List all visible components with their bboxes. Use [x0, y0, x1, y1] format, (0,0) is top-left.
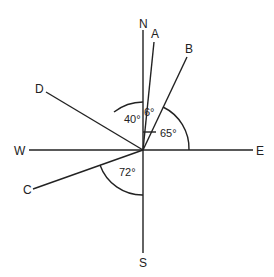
label-a: A: [151, 27, 159, 41]
angle-label-72: 72°: [119, 166, 136, 178]
angle-arc-40: [114, 102, 143, 112]
label-b: B: [185, 42, 193, 56]
compass-diagram: N S E W A B C D 6° 40° 65° 72°: [0, 0, 274, 277]
angle-label-6: 6°: [144, 106, 155, 118]
angle-label-40: 40°: [124, 113, 141, 125]
label-s: S: [139, 256, 147, 270]
diagram-canvas: N S E W A B C D 6° 40° 65° 72°: [0, 0, 274, 277]
angle-label-65: 65°: [160, 127, 177, 139]
label-c: C: [23, 183, 32, 197]
label-n: N: [139, 17, 148, 31]
ray-a: [143, 42, 154, 150]
label-w: W: [14, 144, 26, 158]
label-d: D: [35, 82, 44, 96]
label-e: E: [256, 144, 264, 158]
